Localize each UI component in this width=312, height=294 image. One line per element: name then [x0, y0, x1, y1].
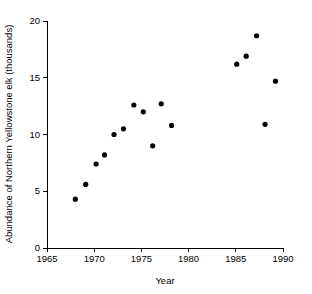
y-tick-label-20: 20 [29, 15, 40, 26]
x-axis-title: Year [155, 275, 174, 286]
data-point [111, 132, 116, 137]
x-tick-label-1980: 1980 [178, 253, 199, 264]
data-point [73, 197, 78, 202]
y-tick-label-0: 0 [35, 242, 40, 253]
data-point [159, 101, 164, 106]
x-tick-label-1975: 1975 [131, 253, 152, 264]
data-point [131, 102, 136, 107]
x-tick-label-1965: 1965 [36, 253, 57, 264]
data-point [83, 182, 88, 187]
data-point [273, 79, 278, 84]
data-point [141, 109, 146, 114]
data-points [73, 33, 278, 202]
data-point [234, 62, 239, 67]
y-tick-label-15: 15 [29, 72, 40, 83]
x-axis-tick-labels: 196519701975198019851990 [36, 253, 293, 264]
data-point [244, 54, 249, 59]
x-tick-label-1990: 1990 [272, 253, 293, 264]
x-tick-label-1970: 1970 [84, 253, 105, 264]
x-axis: 196519701975198019851990 [36, 248, 293, 264]
x-axis-ticks [47, 248, 283, 252]
chart-canvas: 05101520 196519701975198019851990 Year A… [0, 0, 312, 294]
y-axis-title: Abundance of Northern Yellowstone elk (t… [3, 25, 14, 244]
x-tick-label-1985: 1985 [225, 253, 246, 264]
y-axis-ticks [43, 21, 47, 248]
data-point [150, 143, 155, 148]
data-point [93, 161, 98, 166]
y-axis-tick-labels: 05101520 [29, 15, 40, 253]
y-axis: 05101520 [29, 15, 47, 253]
scatter-plot-figure: 05101520 196519701975198019851990 Year A… [0, 0, 312, 294]
y-tick-label-5: 5 [35, 185, 40, 196]
data-point [169, 123, 174, 128]
data-point [121, 126, 126, 131]
data-point [102, 152, 107, 157]
data-point [254, 33, 259, 38]
data-point [262, 122, 267, 127]
y-tick-label-10: 10 [29, 129, 40, 140]
